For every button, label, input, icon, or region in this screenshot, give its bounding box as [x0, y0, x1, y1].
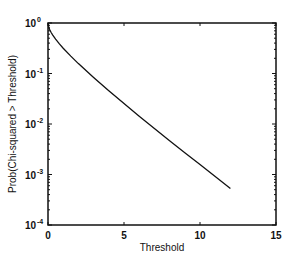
- x-tick-labels: 051015: [45, 230, 282, 241]
- axis-ticks: [48, 23, 276, 225]
- x-tick-label: 5: [121, 230, 127, 241]
- y-tick-label: 10: [25, 220, 37, 231]
- y-tick-labels: 10-410-310-210-1100: [25, 16, 43, 231]
- y-tick-label: 10: [25, 170, 37, 181]
- y-tick-exponent: 0: [37, 16, 41, 23]
- y-tick-label: 10: [25, 119, 37, 130]
- y-tick-exponent: -2: [37, 117, 43, 124]
- plot-frame: [48, 23, 276, 225]
- x-tick-label: 15: [270, 230, 282, 241]
- y-axis-label: Prob(Chi-squared > Threshold): [7, 55, 18, 193]
- y-tick-exponent: -4: [37, 218, 43, 225]
- y-tick-exponent: -1: [37, 67, 43, 74]
- y-tick-label: 10: [25, 69, 37, 80]
- y-tick-exponent: -3: [37, 168, 43, 175]
- x-tick-label: 0: [45, 230, 51, 241]
- x-tick-label: 10: [194, 230, 206, 241]
- y-tick-label: 10: [25, 18, 37, 29]
- x-axis-label: Threshold: [140, 242, 184, 253]
- chart: 051015 10-410-310-210-1100 Threshold Pro…: [0, 0, 295, 262]
- data-line: [48, 23, 230, 188]
